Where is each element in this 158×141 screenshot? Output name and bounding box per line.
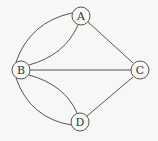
svg-text:D: D (76, 116, 85, 129)
edge-b-d-inner (29, 75, 77, 113)
node-b: B (12, 61, 30, 79)
graph-diagram: A B C D (0, 0, 158, 141)
node-c: C (131, 61, 149, 79)
svg-text:C: C (136, 64, 144, 77)
edge-b-d-outer (16, 78, 71, 125)
svg-text:B: B (17, 64, 25, 77)
svg-text:A: A (76, 10, 86, 23)
node-a: A (72, 7, 90, 25)
edge-a-c (88, 22, 133, 63)
graph-svg: A B C D (0, 0, 158, 141)
edge-c-d (87, 77, 133, 116)
edge-a-b-outer (16, 13, 72, 62)
node-d: D (71, 113, 89, 131)
